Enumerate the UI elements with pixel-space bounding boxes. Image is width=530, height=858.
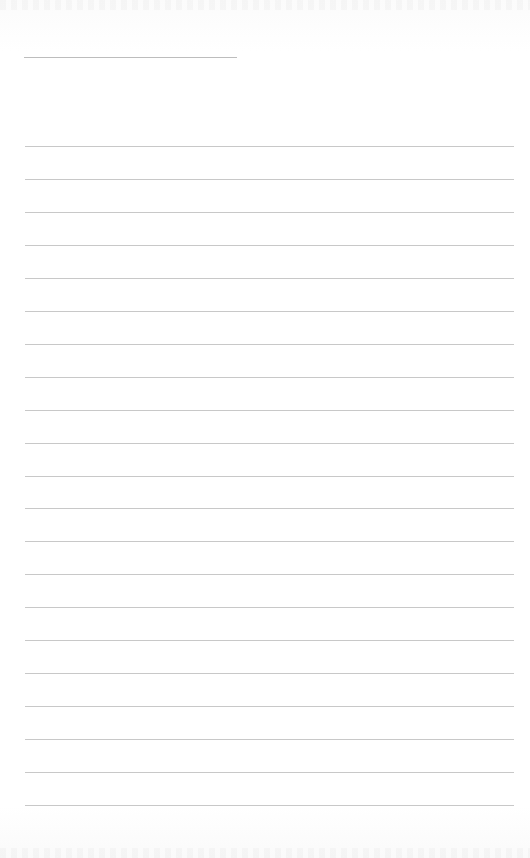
ruled-line bbox=[25, 607, 514, 608]
ruled-line bbox=[25, 476, 514, 477]
header-write-line bbox=[24, 57, 237, 58]
ruled-line bbox=[25, 640, 514, 641]
ruled-line bbox=[25, 278, 514, 279]
ruled-line bbox=[25, 772, 514, 773]
ruled-line bbox=[25, 443, 514, 444]
ruled-line bbox=[25, 574, 514, 575]
ruled-line bbox=[25, 311, 514, 312]
ruled-line bbox=[25, 541, 514, 542]
ruled-line bbox=[25, 212, 514, 213]
top-bleed-through bbox=[0, 0, 530, 10]
lined-paper-page bbox=[0, 0, 530, 858]
ruled-line bbox=[25, 245, 514, 246]
ruled-line bbox=[25, 179, 514, 180]
ruled-line bbox=[25, 508, 514, 509]
ruled-line bbox=[25, 410, 514, 411]
bottom-bleed-through bbox=[0, 848, 530, 858]
ruled-line bbox=[25, 377, 514, 378]
ruled-line bbox=[25, 673, 514, 674]
ruled-line bbox=[25, 344, 514, 345]
ruled-line bbox=[25, 805, 514, 806]
ruled-line bbox=[25, 706, 514, 707]
ruled-line bbox=[25, 146, 514, 147]
ruled-line bbox=[25, 739, 514, 740]
